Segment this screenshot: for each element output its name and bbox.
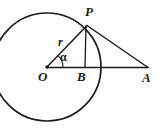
label-point-a: A [142, 71, 151, 84]
label-point-b: B [77, 70, 86, 83]
segment-op-radius [47, 26, 87, 68]
figure-canvas [0, 0, 160, 128]
label-point-p: P [85, 5, 93, 18]
label-angle-alpha: α [60, 51, 67, 63]
label-point-o: O [38, 70, 47, 83]
geometry-figure: P O B A r α [0, 0, 160, 128]
segment-pb-perpendicular [85, 26, 86, 68]
label-radius-r: r [58, 36, 63, 48]
